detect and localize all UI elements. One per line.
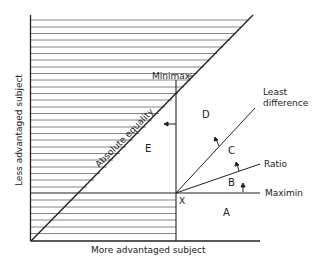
region-b-label: B	[228, 177, 235, 188]
ratio-label: Ratio	[264, 159, 288, 169]
region-d-label: D	[202, 109, 210, 120]
absolute-equality-label: Absolute equality	[93, 106, 156, 169]
maximin-arrow-icon	[241, 183, 245, 192]
minimax-label: Minimax	[152, 71, 191, 81]
least-difference-label-line1: Least	[263, 87, 288, 97]
point-x-label: X	[179, 196, 185, 206]
least-difference-arrow-icon	[214, 137, 219, 146]
region-c-label: C	[228, 145, 235, 156]
ratio-line	[176, 164, 260, 193]
distributive-justice-diagram: Minimax Least difference Ratio Maximin X…	[0, 0, 329, 267]
region-a-label: A	[223, 207, 230, 218]
ratio-arrow-icon	[235, 162, 239, 171]
least-difference-line	[176, 108, 255, 193]
diagram-canvas: Minimax Least difference Ratio Maximin X…	[0, 0, 329, 267]
hatching-upper	[31, 20, 249, 187]
x-axis-label: More advantaged subject	[91, 245, 206, 255]
hatching-lower	[31, 200, 176, 234]
minimax-arrow-icon	[164, 122, 176, 126]
region-e-label: E	[145, 143, 151, 154]
least-difference-label-line2: difference	[263, 98, 309, 108]
y-axis-label: Less advantaged subject	[14, 74, 24, 186]
maximin-label: Maximin	[265, 188, 303, 198]
